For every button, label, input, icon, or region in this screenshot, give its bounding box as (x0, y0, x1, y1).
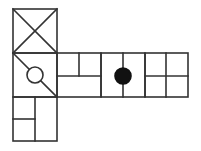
cube-net-diagram (0, 0, 201, 151)
open-circle-icon (27, 67, 43, 83)
face-bottom-left (13, 97, 57, 141)
face-strip-1 (57, 53, 101, 97)
face-strip-3 (145, 53, 188, 97)
face-top-left (13, 9, 57, 53)
face-strip-2 (101, 53, 145, 97)
face-middle-left (13, 53, 57, 97)
filled-circle-icon (115, 68, 131, 84)
